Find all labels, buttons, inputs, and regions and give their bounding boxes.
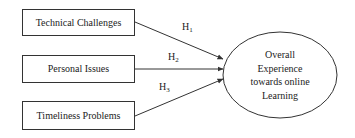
edge-h3-arrow (135, 79, 223, 116)
hypothesis-label-h3: H3 (159, 82, 170, 94)
hypothesis-label-h1: H1 (182, 22, 193, 34)
node-overall-experience: Overall Experience towards online Learni… (223, 32, 337, 118)
node-personal-issues: Personal Issues (22, 55, 135, 83)
node-label: Personal Issues (48, 64, 109, 74)
ellipse-line-3: towards online (250, 75, 309, 89)
node-timeliness-problems: Timeliness Problems (22, 101, 135, 130)
hypothesis-label-h2: H2 (168, 52, 179, 64)
node-label: Technical Challenges (36, 18, 122, 28)
ellipse-line-2: Experience (250, 62, 309, 76)
node-label: Timeliness Problems (37, 111, 121, 121)
edge-h1-arrow (135, 22, 223, 59)
ellipse-line-4: Learning (250, 89, 309, 103)
node-technical-challenges: Technical Challenges (22, 9, 135, 36)
ellipse-line-1: Overall (250, 48, 309, 62)
